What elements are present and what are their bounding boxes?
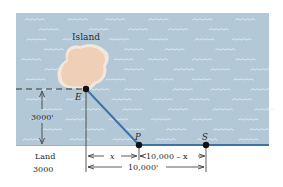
land-label: Land: [35, 152, 55, 161]
segment-total-label: 10,000': [128, 163, 158, 172]
offshore-distance-label: 3000': [31, 113, 54, 122]
point-p-marker: [136, 142, 142, 148]
point-e-marker: [83, 86, 89, 92]
point-s-label: S: [202, 132, 208, 142]
segment-x-label: x: [110, 152, 115, 161]
point-p-label: P: [134, 132, 141, 142]
land-cost-label: 3000: [33, 165, 53, 174]
water-region: [16, 13, 269, 145]
segment-remaining-label: 10,000 – x: [146, 152, 188, 161]
point-e-label: E: [74, 92, 82, 102]
diagram: Island E P S 3000' Land 3000 x 10,000 – …: [0, 0, 283, 187]
island-label: Island: [72, 32, 100, 42]
point-s-marker: [203, 142, 209, 148]
